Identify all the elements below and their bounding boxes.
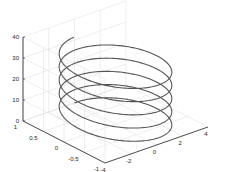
z-tick-label: 10 xyxy=(12,97,19,103)
helix-3d-plot: 010203040-1-0.500.51-4-2024 xyxy=(0,0,225,172)
x-tick-label: -2 xyxy=(126,158,132,164)
grid-line xyxy=(64,106,167,142)
x-tick-label: -4 xyxy=(100,167,106,172)
grid-line xyxy=(44,96,147,132)
tick-labels: 010203040-1-0.500.51-4-2024 xyxy=(12,34,208,172)
x-axis-line xyxy=(105,127,208,163)
y-tick-label: -0.5 xyxy=(68,156,79,162)
y-tick-label: 1 xyxy=(14,124,18,130)
grid-lines xyxy=(23,1,208,163)
helix-line xyxy=(59,37,172,141)
y-tick-label: 0 xyxy=(55,145,59,151)
z-tick-label: 20 xyxy=(12,76,19,82)
z-tick-label: 40 xyxy=(12,34,19,40)
y-tick-label: -1 xyxy=(94,166,100,172)
z-tick-label: 30 xyxy=(12,55,19,61)
x-tick-label: 4 xyxy=(204,131,208,137)
x-tick-label: 2 xyxy=(179,140,183,146)
x-tick-label: 0 xyxy=(153,149,157,155)
grid-line xyxy=(85,117,188,153)
y-tick-label: 0.5 xyxy=(29,135,38,141)
